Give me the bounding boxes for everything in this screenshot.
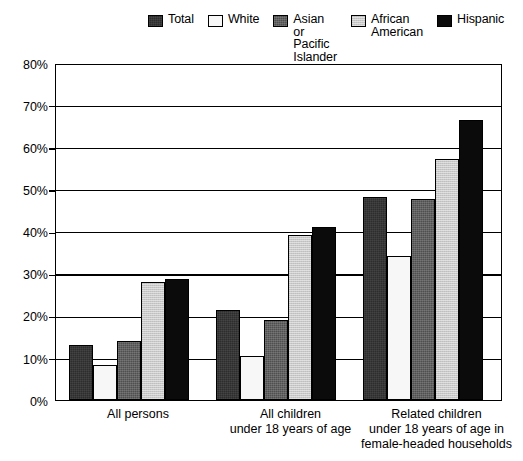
bar-african-american [288, 235, 312, 400]
bar-asian-or-pacific-islander [117, 341, 141, 400]
bar-hispanic [459, 120, 483, 400]
chart-legend: Total White Asian or Pacific Islander Af… [148, 13, 516, 59]
hispanic-swatch-icon [437, 15, 452, 27]
legend-item-total: Total [148, 13, 194, 27]
y-axis-tick-label: 70% [6, 101, 48, 114]
y-axis-tick-label: 0% [6, 396, 48, 409]
legend-item-african-american: African American [351, 13, 423, 38]
legend-label-white: White [228, 13, 259, 26]
bar-asian-or-pacific-islander [264, 320, 288, 400]
legend-label-hispanic: Hispanic [457, 13, 504, 26]
legend-label-total: Total [168, 13, 194, 26]
total-swatch-icon [148, 15, 163, 27]
y-axis-tick-label: 50% [6, 185, 48, 198]
y-axis-tick-label: 30% [6, 269, 48, 282]
x-axis-category-label-all-persons: All persons [58, 407, 218, 422]
bar-total [216, 310, 240, 400]
bar-african-american [435, 159, 459, 400]
bar-asian-or-pacific-islander [411, 199, 435, 400]
legend-item-asian-pacific-islander: Asian or Pacific Islander [273, 13, 337, 63]
bar-group-all-persons [69, 65, 189, 400]
legend-label-african-american: African American [371, 13, 423, 38]
y-axis-tick-label: 80% [6, 59, 48, 72]
bar-white [387, 256, 411, 400]
y-axis-tick-label: 60% [6, 143, 48, 156]
bar-chart: Total White Asian or Pacific Islander Af… [0, 0, 523, 461]
asian-pacific-islander-swatch-icon [273, 15, 288, 27]
bar-total [69, 345, 93, 400]
bar-group-related-children-female-headed [363, 65, 483, 400]
y-axis-tick-label: 10% [6, 354, 48, 367]
bar-white [93, 365, 117, 400]
legend-item-hispanic: Hispanic [437, 13, 504, 27]
y-axis-tick-label: 40% [6, 227, 48, 240]
y-axis-tick-label: 20% [6, 311, 48, 324]
bar-group-all-children-under-18 [216, 65, 336, 400]
x-axis-category-label-related-children: Related children under 18 years of age i… [349, 407, 523, 452]
white-swatch-icon [208, 15, 223, 27]
bar-total [363, 197, 387, 400]
legend-label-asian-pacific-islander: Asian or Pacific Islander [293, 13, 337, 63]
bar-hispanic [312, 227, 336, 400]
legend-item-white: White [208, 13, 259, 27]
plot-area [55, 64, 502, 401]
bar-white [240, 356, 264, 400]
african-american-swatch-icon [351, 15, 366, 27]
bar-african-american [141, 282, 165, 400]
bar-hispanic [165, 279, 189, 400]
